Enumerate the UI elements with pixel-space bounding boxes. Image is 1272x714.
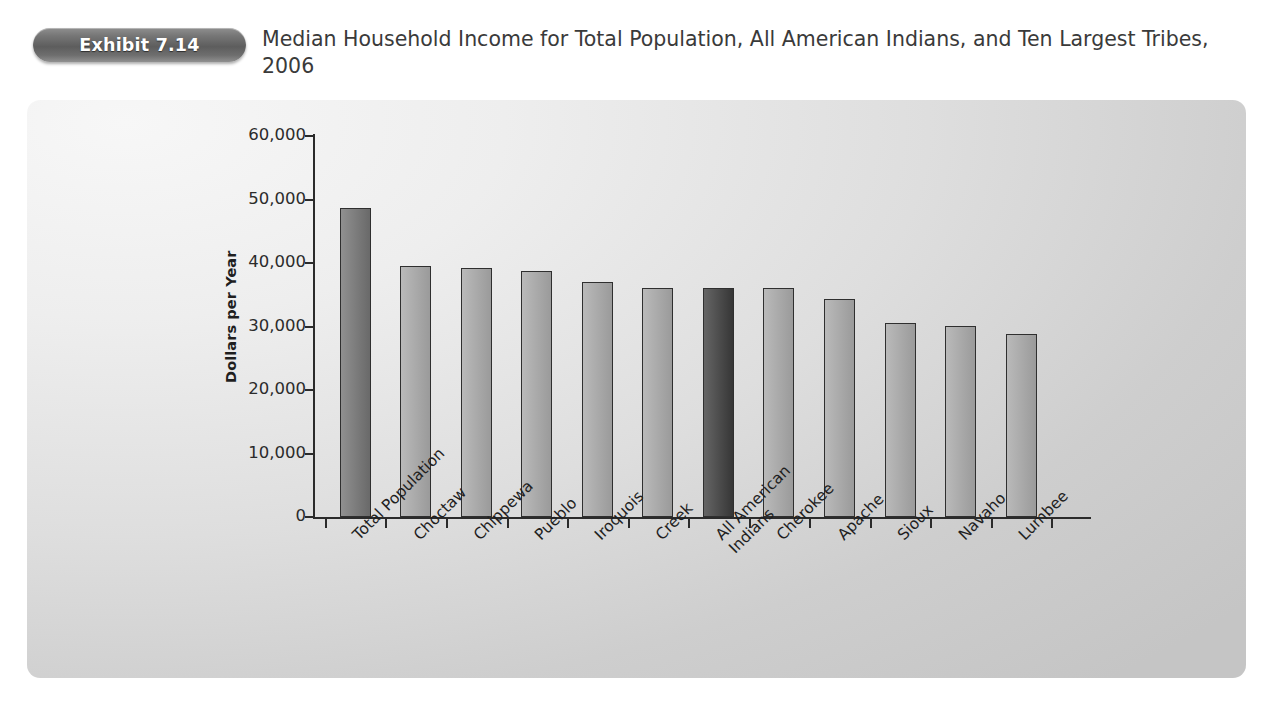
chart-panel: Dollars per Year 60,00050,00040,00030,00… [27,100,1246,678]
exhibit-page: Exhibit 7.14 Median Household Income for… [0,0,1272,714]
exhibit-badge-label: Exhibit 7.14 [79,35,199,55]
x-axis-label: Lumbee [1015,487,1072,544]
exhibit-title: Median Household Income for Total Popula… [262,26,1247,80]
exhibit-badge: Exhibit 7.14 [33,28,246,62]
x-axis-label: Choctaw [410,484,471,545]
x-axis-label: Navaho [955,489,1010,544]
x-axis-label: Pueblo [531,494,581,544]
exhibit-header: Exhibit 7.14 Median Household Income for… [0,0,1272,96]
bar-chart-plot: Dollars per Year 60,00050,00040,00030,00… [27,100,1246,678]
x-axis-label: Sioux [894,501,938,545]
x-axis-label: Chippewa [470,477,537,544]
x-axis-label: Apache [834,490,888,544]
x-axis-label: Iroquois [591,487,648,544]
x-axis-label: Creek [652,499,697,544]
x-axis-labels: Total PopulationChoctawChippewaPuebloIro… [27,100,1246,678]
